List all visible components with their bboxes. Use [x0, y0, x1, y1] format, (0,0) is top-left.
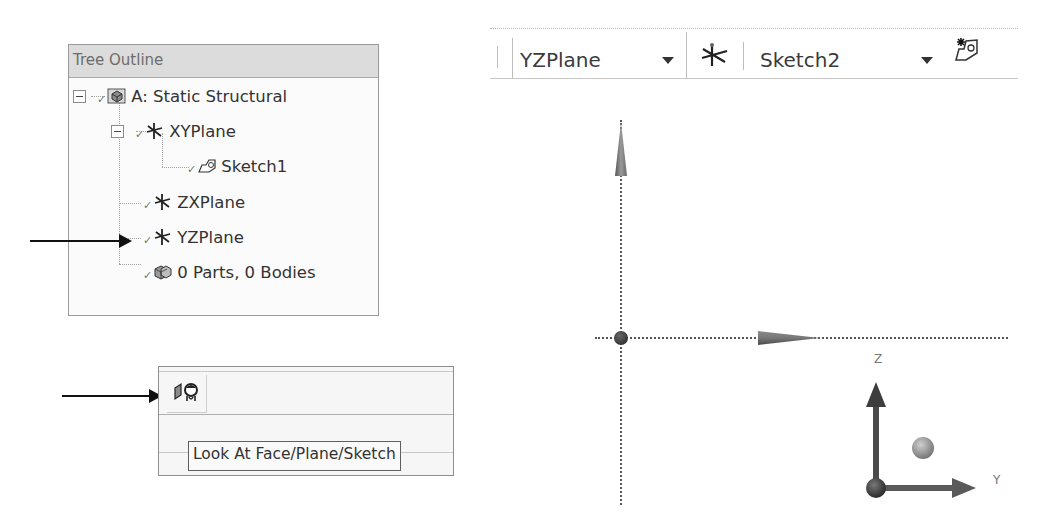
annotation-arrow-look-at — [62, 395, 160, 397]
look-at-button[interactable] — [167, 375, 207, 413]
plane-icon — [145, 122, 165, 140]
horizontal-axis-arrow — [756, 329, 822, 347]
check-icon: ✓ — [135, 128, 144, 141]
toolbar-row — [159, 371, 453, 415]
tree-item-parts-bodies[interactable]: ✓ 0 Parts, 0 Bodies — [143, 261, 316, 283]
collapse-toggle[interactable] — [73, 90, 86, 103]
tree-connector — [119, 203, 141, 204]
check-icon: ✓ — [143, 234, 152, 247]
tree-item-label: 0 Parts, 0 Bodies — [177, 263, 315, 282]
check-icon: ✓ — [143, 199, 152, 212]
triad-y-label: Y — [993, 473, 1000, 487]
tree-connector — [119, 264, 141, 265]
tree-outline-body: ✓ A: Static Structural ✓ XYPlane — [69, 78, 378, 315]
look-at-tooltip: Look At Face/Plane/Sketch — [188, 441, 401, 471]
toolbar-top-rule — [490, 28, 1018, 29]
tree-connector — [162, 167, 189, 168]
chevron-down-icon[interactable] — [921, 57, 933, 64]
origin-point[interactable] — [614, 331, 628, 345]
tree-outline-title: Tree Outline — [69, 45, 378, 78]
sketch-selector-value: Sketch2 — [760, 48, 840, 72]
tree-outline-panel: Tree Outline ✓ A: Static Structural — [68, 44, 379, 316]
check-icon: ✓ — [97, 93, 106, 106]
tree-item-label: Sketch1 — [221, 157, 287, 176]
tree-item-label: A: Static Structural — [131, 87, 287, 106]
tree-item-sketch1[interactable]: ✓ Sketch1 — [187, 155, 287, 177]
check-icon: ✓ — [187, 163, 196, 176]
tree-item-zxplane[interactable]: ✓ ZXPlane — [143, 191, 245, 213]
triad-z-label: Z — [874, 352, 882, 366]
sketch-selector[interactable]: Sketch2 — [760, 42, 950, 78]
plane-icon — [153, 193, 173, 211]
toolbar-separator — [512, 38, 513, 78]
chevron-down-icon[interactable] — [662, 57, 674, 64]
graphics-viewport[interactable]: Z Y — [580, 110, 1043, 528]
parts-bodies-icon — [153, 263, 173, 281]
toolbar-separator — [686, 32, 687, 78]
collapse-toggle[interactable] — [111, 125, 124, 138]
tree-item-label: ZXPlane — [177, 193, 245, 212]
new-plane-icon[interactable] — [700, 42, 730, 74]
plane-selector[interactable]: YZPlane — [520, 42, 682, 78]
tree-item-label: YZPlane — [177, 228, 244, 247]
triad-axes-icon — [860, 380, 980, 505]
model-icon — [107, 87, 127, 105]
tree-item-xyplane[interactable]: ✓ XYPlane — [111, 120, 236, 142]
vertical-axis-arrow — [612, 120, 630, 178]
toolbar-separator — [743, 42, 744, 70]
plane-icon — [153, 228, 173, 246]
tree-item-label: XYPlane — [169, 122, 236, 141]
toolbar-grip[interactable] — [497, 46, 498, 68]
new-sketch-icon[interactable] — [953, 35, 981, 69]
plane-selector-value: YZPlane — [520, 48, 601, 72]
tree-item-static-structural[interactable]: ✓ A: Static Structural — [73, 85, 287, 107]
check-icon: ✓ — [143, 269, 152, 282]
tree-item-yzplane[interactable]: ✓ YZPlane — [143, 226, 244, 248]
toolbar-bottom-rule — [490, 78, 1018, 79]
look-at-icon — [172, 380, 202, 408]
annotation-arrow-yzplane — [30, 240, 130, 242]
toolbar-snippet: Look At Face/Plane/Sketch — [158, 366, 454, 476]
sketching-toolbar: YZPlane Sketch2 — [490, 22, 1018, 82]
sketch-icon — [197, 157, 217, 175]
